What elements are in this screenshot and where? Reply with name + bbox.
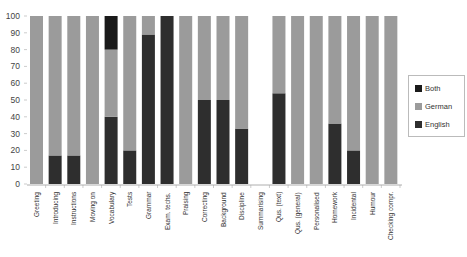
bar-stack [142,16,155,184]
bar-segment-german [49,16,62,155]
legend-label-german: German [425,102,452,111]
bar-segment-german [217,16,230,100]
x-tick-label: Humour [369,192,376,215]
bar-stack [123,16,136,184]
bar-stack [291,16,304,184]
bar-segment-german [310,16,323,184]
bar-segment-english [142,34,155,184]
bar-segment-german [235,16,248,129]
y-tick-label: 30 [0,129,20,139]
bar-segment-english [328,124,341,184]
y-tick-label: 70 [0,61,20,71]
x-tick-label: Discipline [238,192,245,220]
stacked-bar-chart: 0102030405060708090100 GreetingIntroduci… [0,0,467,257]
x-tick-label: Instructions [70,192,77,225]
bar-segment-english [161,16,174,184]
bar-segment-english [272,93,285,184]
x-tick-label: Homework [331,192,338,223]
bar-segment-german [142,16,155,34]
legend-swatch-english [415,121,422,128]
legend-swatch-german [415,103,422,110]
legend-item-both: Both [415,84,440,93]
legend-label-english: English [425,120,450,129]
bar-segment-german [30,16,43,184]
bar-segment-german [272,16,285,93]
bar-stack [179,16,192,184]
bar-segment-german [328,16,341,124]
x-tick-label: Summarising [257,192,264,230]
legend-label-both: Both [425,84,440,93]
x-tick-label: Qus. (general) [294,192,301,234]
bar-segment-english [123,150,136,184]
bar-stack [235,16,248,184]
x-tick-label: Moving on [89,192,96,222]
y-tick-label: 20 [0,145,20,155]
x-tick-label: Exam. techs. [164,192,171,230]
x-tick-label: Background [220,192,227,227]
bar-segment-german [198,16,211,100]
bar-segment-german [347,16,360,150]
y-tick-label: 100 [0,11,20,21]
bar-segment-english [235,129,248,184]
bar-segment-english [198,100,211,184]
legend-swatch-both [415,85,422,92]
bar-segment-german [366,16,379,184]
x-tick-label: Greeting [33,192,40,217]
bar-stack [310,16,323,184]
legend-item-english: English [415,120,450,129]
bar-segment-german [123,16,136,150]
bar-stack [161,16,174,184]
bar-stack [328,16,341,184]
y-tick-label: 10 [0,162,20,172]
x-tick-label: Vocabulary [108,192,115,224]
x-tick-label: Qus. (text) [275,192,282,222]
y-tick-label: 60 [0,78,20,88]
bar-segment-english [105,117,118,184]
y-tick-label: 90 [0,28,20,38]
bar-stack [49,16,62,184]
bar-segment-german [291,16,304,184]
bar-stack [30,16,43,184]
bar-segment-english [67,155,80,184]
y-tick-label: 50 [0,95,20,105]
bar-stack [366,16,379,184]
bar-segment-both [105,16,118,50]
y-tick-label: 40 [0,112,20,122]
y-tick-label: 0 [0,179,20,189]
bar-stack [86,16,99,184]
bar-segment-german [86,16,99,184]
x-tick-label: Grammar [145,192,152,219]
x-tick-label: Incidental [350,192,357,220]
y-tick-label: 80 [0,45,20,55]
bar-stack [347,16,360,184]
bar-segment-english [347,150,360,184]
bar-stack [67,16,80,184]
bar-segment-english [49,155,62,184]
bar-segment-english [217,100,230,184]
x-tick-label: Praising [182,192,189,215]
bar-stack [272,16,285,184]
x-tick-label: Introducing [52,192,59,224]
bar-stack [105,16,118,184]
x-tick-label: Correcting [201,192,208,222]
bar-stack [217,16,230,184]
bar-stack [198,16,211,184]
x-tick-label: Checking compr. [387,192,394,240]
bar-segment-german [67,16,80,155]
bar-segment-german [384,16,397,184]
bar-segment-german [105,50,118,117]
legend: Both German English [408,75,465,137]
x-tick-label: Personalised [313,192,320,230]
legend-item-german: German [415,102,452,111]
x-tick-label: Tests [126,192,133,207]
bar-stack [384,16,397,184]
bar-segment-german [179,16,192,184]
